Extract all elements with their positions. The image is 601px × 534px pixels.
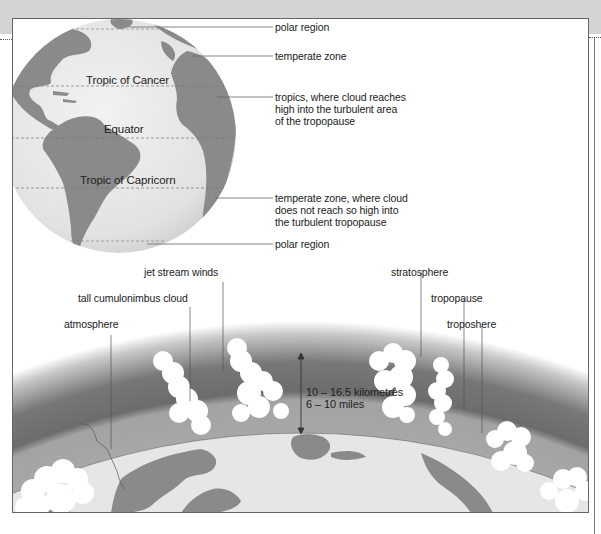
label-stratosphere: stratosphere bbox=[391, 266, 448, 278]
callout-tropics: tropics, where cloud reaches high into t… bbox=[275, 91, 406, 127]
dotted-guide-left bbox=[0, 39, 12, 40]
label-atmosphere: atmosphere bbox=[64, 318, 118, 330]
height-miles-label: 6 – 10 miles bbox=[306, 398, 364, 410]
margin-rule bbox=[594, 38, 595, 534]
callout-temperate-zone-south: temperate zone, where cloud does not rea… bbox=[275, 192, 408, 228]
label-tropic-of-capricorn: Tropic of Capricorn bbox=[80, 174, 175, 186]
callout-polar-region-north: polar region bbox=[275, 21, 329, 33]
label-troposphere: troposhere bbox=[447, 318, 496, 330]
label-jet-stream-winds: jet stream winds bbox=[144, 266, 218, 278]
callout-polar-region-south: polar region bbox=[275, 238, 329, 250]
height-km-label: 10 – 16.5 kilometres bbox=[306, 386, 403, 398]
label-tropic-of-cancer: Tropic of Cancer bbox=[86, 74, 169, 86]
globe bbox=[13, 19, 241, 253]
label-tropopause: tropopause bbox=[431, 292, 483, 304]
label-equator: Equator bbox=[104, 123, 144, 135]
atmosphere-cross-section bbox=[13, 272, 588, 512]
callout-temperate-zone-north: temperate zone bbox=[275, 50, 347, 62]
dotted-guide-right bbox=[589, 37, 601, 38]
label-tall-cumulonimbus-cloud: tall cumulonimbus cloud bbox=[78, 292, 188, 304]
diagram-frame: Tropic of Cancer Equator Tropic of Capri… bbox=[12, 18, 589, 513]
